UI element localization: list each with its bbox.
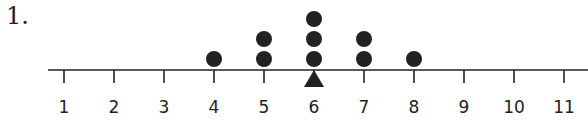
tick-label: 6 — [309, 97, 320, 117]
data-dot — [356, 51, 372, 67]
data-dot — [256, 31, 272, 47]
data-dot — [306, 11, 322, 27]
data-dot — [256, 51, 272, 67]
data-dot — [356, 31, 372, 47]
tick-label: 10 — [503, 97, 525, 117]
tick-label: 4 — [209, 97, 220, 117]
data-dot — [306, 51, 322, 67]
data-dot — [306, 31, 322, 47]
tick-label: 8 — [409, 97, 420, 117]
balance-point-triangle-icon — [304, 70, 324, 87]
tick-label: 7 — [359, 97, 370, 117]
tick-label: 3 — [159, 97, 170, 117]
tick-label: 1 — [59, 97, 70, 117]
tick-label: 9 — [459, 97, 470, 117]
dot-plot: 1234567891011 — [0, 0, 588, 130]
tick-label: 5 — [259, 97, 270, 117]
data-dot — [206, 51, 222, 67]
data-dot — [406, 51, 422, 67]
tick-label: 2 — [109, 97, 120, 117]
tick-label: 11 — [553, 97, 575, 117]
